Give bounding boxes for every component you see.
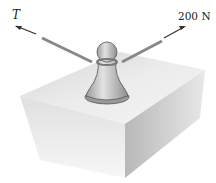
force-label-200n: 200 N (178, 10, 211, 22)
bollard-diagram (0, 0, 216, 183)
rope-left (42, 38, 92, 62)
force-label-t: T (12, 8, 20, 22)
arrow-right-icon (164, 26, 186, 38)
arrow-left-icon (15, 26, 36, 34)
